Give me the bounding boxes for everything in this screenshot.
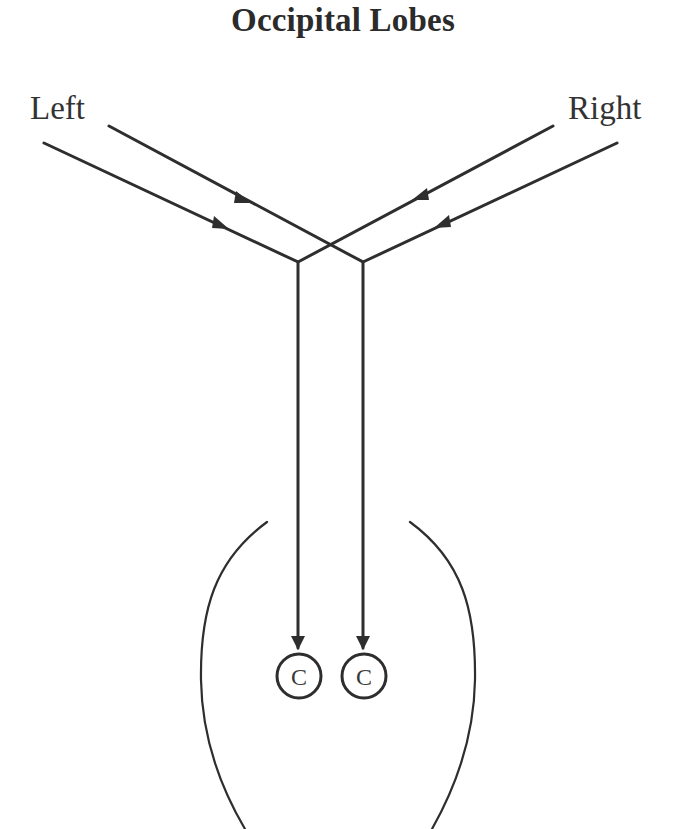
- left-lobe-outline: [201, 522, 267, 829]
- direction-arrows: [212, 188, 451, 650]
- arrow-icon: [412, 188, 429, 200]
- arrow-down-icon: [356, 636, 370, 650]
- arrow-down-icon: [291, 636, 305, 650]
- arrow-icon: [434, 215, 451, 228]
- c-node-left-label: C: [291, 664, 307, 690]
- pathway-diagram: C C: [0, 0, 686, 829]
- arrow-icon: [234, 191, 251, 203]
- right-lobe-outline: [410, 522, 475, 829]
- left-inner-path: [109, 126, 363, 648]
- left-outer-path: [44, 143, 298, 648]
- c-node-right: C: [342, 654, 386, 698]
- c-node-right-label: C: [356, 664, 372, 690]
- arrow-icon: [212, 216, 229, 229]
- c-node-left: C: [277, 654, 321, 698]
